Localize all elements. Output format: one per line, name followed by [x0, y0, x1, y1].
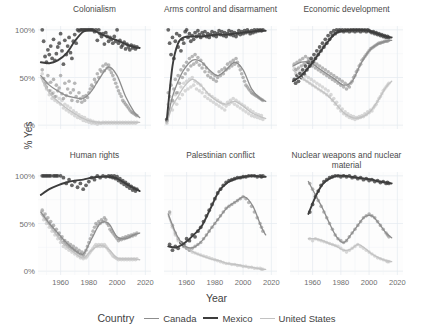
x-tick-label: 1960: [52, 278, 69, 287]
facet-title: Colonialism: [38, 5, 151, 15]
legend-label-united-states: United States: [279, 313, 336, 324]
facet-panel: Human rights0%50%100%1960198020002020: [38, 172, 151, 275]
legend-key-mexico[interactable]: Mexico: [203, 313, 252, 324]
x-tick-label: 1960: [304, 278, 321, 287]
y-tick-label: 50%: [19, 219, 35, 228]
facet-plot-area: [290, 26, 403, 129]
facet-plot-area: [164, 26, 277, 129]
x-tick-label: 2000: [109, 278, 126, 287]
legend-swatch-canada: [144, 318, 159, 319]
x-tick-label: 1980: [333, 278, 350, 287]
legend-key-united-states[interactable]: United States: [260, 313, 336, 324]
x-tick-label: 2020: [137, 278, 154, 287]
y-axis-label: % Yes: [23, 106, 34, 166]
legend-swatch-united-states: [260, 318, 275, 319]
x-tick-label: 1960: [178, 278, 195, 287]
x-tick-label: 2020: [263, 278, 280, 287]
y-tick-label: 50%: [19, 73, 35, 82]
x-tick-label: 2000: [235, 278, 252, 287]
facet-panel: Nuclear weapons and nuclear material1960…: [290, 172, 403, 275]
facet-title: Palestinian conflict: [164, 151, 277, 161]
facet-title: Nuclear weapons and nuclear material: [290, 151, 403, 170]
legend-label-mexico: Mexico: [222, 313, 252, 324]
y-tick-label: 0%: [24, 121, 35, 130]
legend-swatch-mexico: [203, 317, 218, 319]
x-axis-label: Year: [0, 292, 433, 304]
facet-title: Arms control and disarmament: [164, 5, 277, 15]
x-tick-label: 1980: [81, 278, 98, 287]
facet-panel: Palestinian conflict1960198020002020: [164, 172, 277, 275]
facet-plot-area: [38, 26, 151, 129]
x-tick-label: 2020: [389, 278, 406, 287]
facet-plot-area: [290, 172, 403, 275]
legend: Country Canada Mexico United States: [0, 312, 433, 324]
facet-title: Economic development: [290, 5, 403, 15]
y-tick-label: 100%: [15, 25, 35, 34]
facet-panel: Colonialism0%50%100%: [38, 26, 151, 129]
chart-root: % Yes Year Colonialism0%50%100%Arms cont…: [0, 0, 433, 336]
facet-panel: Arms control and disarmament: [164, 26, 277, 129]
x-tick-label: 2000: [361, 278, 378, 287]
facet-panel: Economic development: [290, 26, 403, 129]
facet-title: Human rights: [38, 151, 151, 161]
y-tick-label: 0%: [24, 267, 35, 276]
facet-plot-area: [38, 172, 151, 275]
y-tick-label: 100%: [15, 171, 35, 180]
facet-plot-area: [164, 172, 277, 275]
x-tick-label: 1980: [207, 278, 224, 287]
legend-label-canada: Canada: [163, 313, 196, 324]
legend-key-canada[interactable]: Canada: [144, 313, 196, 324]
legend-title: Country: [97, 312, 134, 324]
